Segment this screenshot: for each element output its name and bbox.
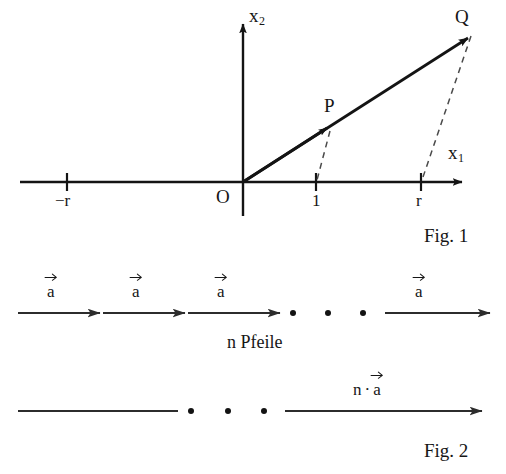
vector-label-a-4: a	[415, 283, 423, 300]
ellipsis-dot	[290, 310, 296, 316]
vector-label-text: a	[217, 282, 225, 301]
ellipsis-dot	[325, 310, 331, 316]
n-pfeile-label: n Pfeile	[227, 333, 283, 351]
vector-arrow-accent-icon	[130, 272, 142, 279]
vector-label-text: a	[132, 282, 140, 301]
vector-arrow-accent-icon	[215, 272, 227, 279]
vector-label-a-2: a	[132, 283, 140, 300]
vector-label-text: a	[47, 282, 55, 301]
ellipsis-dot	[261, 408, 267, 414]
vector-label-text: a	[415, 282, 423, 301]
vector-arrow-accent-icon	[371, 370, 383, 377]
vector-label-a-1: a	[47, 283, 55, 300]
figure2-caption: Fig. 2	[424, 441, 468, 460]
multiplication-dot-icon: ·	[362, 380, 374, 399]
n-factor-text: n	[353, 380, 362, 399]
ellipsis-dot	[360, 310, 366, 316]
ellipsis-dot	[225, 408, 231, 414]
vector-label-text: a	[373, 380, 381, 399]
vector-arrow-accent-icon	[413, 272, 425, 279]
ellipsis-dot	[188, 408, 194, 414]
figure2-graphics	[0, 0, 506, 474]
figure-page: x2 x1 P Q O −r 1 r Fig. 1 a	[0, 0, 506, 474]
vector-label-n-times-a: n· a	[353, 381, 381, 398]
vector-label-a-3: a	[217, 283, 225, 300]
vector-arrow-accent-icon	[45, 272, 57, 279]
